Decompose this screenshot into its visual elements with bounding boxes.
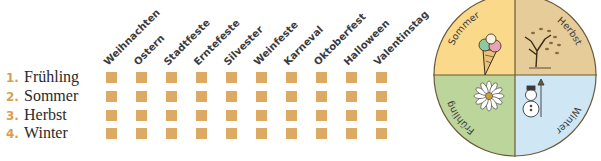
checkbox-1-10[interactable] xyxy=(376,72,387,83)
season-label: Frühling xyxy=(24,68,79,85)
checkbox-2-9[interactable] xyxy=(346,91,357,102)
row-number: 2. xyxy=(6,88,24,106)
checkbox-3-9[interactable] xyxy=(346,110,357,121)
checkbox-4-5[interactable] xyxy=(226,128,237,139)
row-number: 1. xyxy=(6,69,24,87)
checkbox-1-8[interactable] xyxy=(316,72,327,83)
checkbox-1-1[interactable] xyxy=(106,72,117,83)
checkbox-1-5[interactable] xyxy=(226,72,237,83)
checkbox-2-2[interactable] xyxy=(136,91,147,102)
checkbox-1-6[interactable] xyxy=(256,72,267,83)
checkbox-2-3[interactable] xyxy=(166,91,177,102)
checkbox-3-4[interactable] xyxy=(196,110,207,121)
checkbox-4-6[interactable] xyxy=(256,128,267,139)
checkbox-3-10[interactable] xyxy=(376,110,387,121)
row-label-winter: 4.Winter xyxy=(6,124,68,142)
row-label-herbst: 3.Herbst xyxy=(6,106,67,124)
row-number: 3. xyxy=(6,107,24,125)
checkbox-1-2[interactable] xyxy=(136,72,147,83)
checkbox-3-2[interactable] xyxy=(136,110,147,121)
season-label: Winter xyxy=(24,124,68,141)
checkbox-4-4[interactable] xyxy=(196,128,207,139)
seasons-wheel: Sommer Herbst Frühling Winter xyxy=(433,0,597,157)
checkbox-4-2[interactable] xyxy=(136,128,147,139)
checkbox-3-7[interactable] xyxy=(286,110,297,121)
checkbox-2-8[interactable] xyxy=(316,91,327,102)
checkbox-2-7[interactable] xyxy=(286,91,297,102)
checkbox-2-4[interactable] xyxy=(196,91,207,102)
checkbox-1-4[interactable] xyxy=(196,72,207,83)
row-number: 4. xyxy=(6,125,24,143)
checkbox-2-5[interactable] xyxy=(226,91,237,102)
row-label-fruehling: 1.Frühling xyxy=(6,68,79,86)
season-label: Herbst xyxy=(24,106,67,123)
row-label-sommer: 2.Sommer xyxy=(6,87,78,105)
checkbox-4-3[interactable] xyxy=(166,128,177,139)
checkbox-3-3[interactable] xyxy=(166,110,177,121)
checkbox-4-9[interactable] xyxy=(346,128,357,139)
checkbox-1-3[interactable] xyxy=(166,72,177,83)
column-header: Valentinstag xyxy=(372,8,432,68)
checkbox-3-5[interactable] xyxy=(226,110,237,121)
checkbox-2-1[interactable] xyxy=(106,91,117,102)
checkbox-2-10[interactable] xyxy=(376,91,387,102)
checkbox-4-7[interactable] xyxy=(286,128,297,139)
checkbox-4-1[interactable] xyxy=(106,128,117,139)
checkbox-3-8[interactable] xyxy=(316,110,327,121)
checkbox-4-8[interactable] xyxy=(316,128,327,139)
season-label: Sommer xyxy=(24,87,78,104)
checkbox-1-9[interactable] xyxy=(346,72,357,83)
checkbox-1-7[interactable] xyxy=(286,72,297,83)
checkbox-4-10[interactable] xyxy=(376,128,387,139)
checkbox-3-1[interactable] xyxy=(106,110,117,121)
checkbox-2-6[interactable] xyxy=(256,91,267,102)
checkbox-3-6[interactable] xyxy=(256,110,267,121)
